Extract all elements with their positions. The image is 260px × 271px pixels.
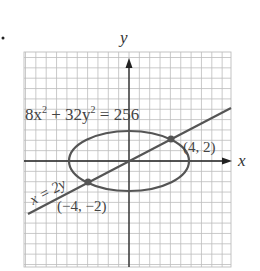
point-neg4-neg2-label: (−4, −2) [57, 198, 106, 215]
x-axis-arrow-icon [222, 158, 232, 165]
y-axis-arrow-icon [126, 58, 133, 68]
point-neg4-neg2 [85, 179, 92, 186]
point-4-2 [168, 136, 175, 143]
point-4-2-label: (4, 2) [183, 139, 216, 156]
grid [24, 52, 231, 267]
y-axis-label: y [118, 28, 128, 47]
bullet-dot [2, 37, 5, 40]
graph-figure: y x 8x2 + 32y2 = 256 x = 2y (4, 2) (−4, … [0, 0, 260, 271]
ellipse-equation-label: 8x2 + 32y2 = 256 [25, 104, 139, 124]
x-axis-label: x [237, 151, 246, 170]
